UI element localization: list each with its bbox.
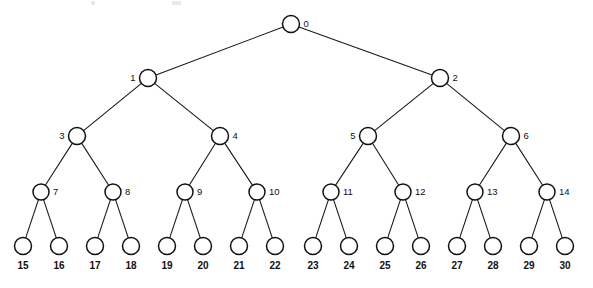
- tree-node-7[interactable]: 7: [33, 184, 58, 200]
- tree-edge-9-20: [188, 200, 201, 238]
- node-circle-21[interactable]: [231, 238, 248, 255]
- tree-node-20[interactable]: 20: [195, 238, 212, 272]
- tree-edge-12-25: [388, 200, 401, 238]
- tree-edge-2-6: [447, 83, 505, 130]
- node-circle-0[interactable]: [283, 16, 300, 33]
- tree-node-12[interactable]: 12: [395, 184, 426, 200]
- node-label-27: 27: [451, 260, 463, 271]
- tree-node-9[interactable]: 9: [177, 184, 202, 200]
- node-label-18: 18: [125, 260, 137, 271]
- tree-node-2[interactable]: 2: [432, 70, 458, 87]
- tree-edge-4-10: [225, 143, 253, 185]
- node-circle-28[interactable]: [485, 238, 502, 255]
- node-circle-23[interactable]: [305, 238, 322, 255]
- node-label-28: 28: [487, 260, 499, 271]
- tree-node-28[interactable]: 28: [485, 238, 502, 272]
- node-circle-24[interactable]: [341, 238, 358, 255]
- node-circle-16[interactable]: [51, 238, 68, 255]
- node-circle-18[interactable]: [123, 238, 140, 255]
- node-label-11: 11: [343, 186, 353, 197]
- tree-edge-3-7: [45, 143, 72, 185]
- tree-edge-14-30: [550, 200, 563, 238]
- tree-node-4[interactable]: 4: [212, 128, 238, 145]
- tree-node-24[interactable]: 24: [341, 238, 358, 272]
- tree-node-21[interactable]: 21: [231, 238, 248, 272]
- node-circle-3[interactable]: [69, 128, 86, 145]
- node-circle-7[interactable]: [33, 184, 49, 200]
- node-circle-9[interactable]: [177, 184, 193, 200]
- tree-node-3[interactable]: 3: [59, 128, 85, 145]
- node-circle-1[interactable]: [140, 70, 157, 87]
- tree-node-27[interactable]: 27: [449, 238, 466, 272]
- tree-node-22[interactable]: 22: [267, 238, 284, 272]
- tree-edge-12-26: [406, 200, 419, 238]
- node-circle-5[interactable]: [360, 128, 377, 145]
- tree-node-6[interactable]: 6: [503, 128, 529, 145]
- tree-node-30[interactable]: 30: [557, 238, 574, 272]
- tree-node-0[interactable]: 0: [283, 16, 309, 33]
- tree-node-5[interactable]: 5: [350, 128, 376, 145]
- node-circle-4[interactable]: [212, 128, 229, 145]
- node-circle-13[interactable]: [467, 184, 483, 200]
- tree-edge-7-16: [44, 200, 57, 238]
- node-circle-8[interactable]: [105, 184, 121, 200]
- tree-edge-11-24: [334, 200, 347, 238]
- tree-node-16[interactable]: 16: [51, 238, 68, 272]
- tree-edge-0-2: [299, 27, 432, 75]
- tree-edge-13-27: [460, 200, 473, 238]
- node-circle-27[interactable]: [449, 238, 466, 255]
- tree-node-19[interactable]: 19: [159, 238, 176, 272]
- node-label-10: 10: [269, 186, 280, 197]
- node-label-0: 0: [304, 18, 309, 29]
- tree-node-26[interactable]: 26: [413, 238, 430, 272]
- node-label-6: 6: [524, 130, 529, 141]
- node-circle-10[interactable]: [249, 184, 265, 200]
- node-label-9: 9: [197, 186, 202, 197]
- node-circle-30[interactable]: [557, 238, 574, 255]
- node-circle-11[interactable]: [323, 184, 339, 200]
- node-label-15: 15: [17, 260, 29, 271]
- node-circle-19[interactable]: [159, 238, 176, 255]
- node-label-12: 12: [415, 186, 426, 197]
- node-circle-29[interactable]: [521, 238, 538, 255]
- tree-edge-11-23: [316, 200, 329, 238]
- tree-node-10[interactable]: 10: [249, 184, 280, 200]
- node-circle-17[interactable]: [87, 238, 104, 255]
- tree-node-14[interactable]: 14: [539, 184, 570, 200]
- tree-node-29[interactable]: 29: [521, 238, 538, 272]
- node-label-30: 30: [559, 260, 571, 271]
- tree-node-23[interactable]: 23: [305, 238, 322, 272]
- node-circle-25[interactable]: [377, 238, 394, 255]
- node-label-1: 1: [130, 72, 135, 83]
- tree-edge-5-11: [335, 143, 363, 185]
- edge-layer: [26, 27, 563, 238]
- node-layer: 0123456789101112131415161718192021222324…: [15, 16, 574, 272]
- node-circle-15[interactable]: [15, 238, 32, 255]
- node-circle-22[interactable]: [267, 238, 284, 255]
- tree-node-11[interactable]: 11: [323, 184, 353, 200]
- tree-edge-0-1: [156, 27, 283, 75]
- node-circle-14[interactable]: [539, 184, 555, 200]
- tree-node-15[interactable]: 15: [15, 238, 32, 272]
- node-circle-20[interactable]: [195, 238, 212, 255]
- node-label-22: 22: [269, 260, 281, 271]
- tree-node-25[interactable]: 25: [377, 238, 394, 272]
- node-label-13: 13: [487, 186, 498, 197]
- tree-edge-6-14: [516, 143, 543, 185]
- tree-node-17[interactable]: 17: [87, 238, 104, 272]
- tree-node-18[interactable]: 18: [123, 238, 140, 272]
- node-label-7: 7: [53, 186, 58, 197]
- node-circle-12[interactable]: [395, 184, 411, 200]
- node-label-2: 2: [453, 72, 458, 83]
- tree-canvas: 0123456789101112131415161718192021222324…: [0, 0, 593, 288]
- node-label-20: 20: [197, 260, 209, 271]
- node-circle-6[interactable]: [503, 128, 520, 145]
- node-label-17: 17: [89, 260, 101, 271]
- node-circle-2[interactable]: [432, 70, 449, 87]
- tree-node-13[interactable]: 13: [467, 184, 498, 200]
- node-circle-26[interactable]: [413, 238, 430, 255]
- node-label-26: 26: [415, 260, 427, 271]
- tree-node-8[interactable]: 8: [105, 184, 130, 200]
- node-label-5: 5: [350, 130, 355, 141]
- tree-node-1[interactable]: 1: [130, 70, 156, 87]
